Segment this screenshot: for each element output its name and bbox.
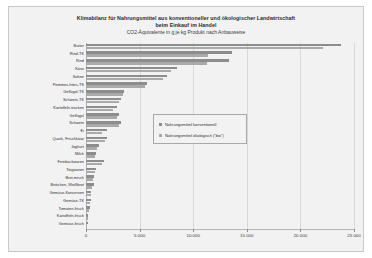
bar-row: [86, 159, 354, 167]
bar-row: [86, 51, 354, 59]
bar-oekologisch: [86, 78, 163, 81]
y-axis-label: Gemüse-Konserven: [21, 189, 84, 197]
x-axis-tick-label: 10.000: [186, 233, 199, 238]
legend-label-konventionell: Nahrungsmittel konventionell: [165, 122, 216, 127]
legend-item-oekologisch: Nahrungsmittel ökologisch ("bio"): [159, 130, 242, 141]
bar-row: [86, 82, 354, 90]
x-axis-tick-label: 20.000: [294, 233, 307, 238]
bar-row: [86, 74, 354, 82]
bar-oekologisch: [86, 85, 145, 88]
legend-label-oekologisch: Nahrungsmittel ökologisch ("bio"): [165, 133, 224, 138]
bar-oekologisch: [86, 178, 93, 181]
bar-row: [86, 59, 354, 67]
y-axis-label: Brot-misch: [21, 174, 84, 182]
y-axis-label: Brötchen, Weißbrot: [21, 181, 84, 189]
x-axis-tick-label: 5.000: [134, 233, 145, 238]
y-axis-label: Gemüse-frisch: [21, 220, 84, 228]
bar-oekologisch: [86, 186, 92, 189]
chart-container: Klimabilanz für Nahrungsmittel aus konve…: [8, 6, 364, 252]
x-axis-tick: [140, 229, 141, 232]
bar-row: [86, 198, 354, 206]
gridline: [354, 43, 355, 229]
bar-row: [86, 183, 354, 191]
x-axis: 05.00010.00015.00020.00025.000: [86, 229, 354, 243]
bar-oekologisch: [86, 225, 87, 228]
x-axis-tick: [193, 229, 194, 232]
x-axis-tick-label: 25.000: [347, 233, 360, 238]
bar-oekologisch: [86, 70, 171, 73]
bar-row: [86, 206, 354, 214]
y-axis-label: Teigwaren: [21, 166, 84, 174]
y-axis-label: Quark, Frischkäse: [21, 135, 84, 143]
y-axis-label: Joghurt: [21, 143, 84, 151]
y-axis-label: Geflügel-TK: [21, 88, 84, 96]
y-axis-label: Schwein: [21, 119, 84, 127]
y-axis-label: Ei: [21, 127, 84, 135]
bar-row: [86, 43, 354, 51]
bar-oekologisch: [86, 62, 207, 65]
y-axis-label: Geflügel: [21, 112, 84, 120]
y-axis-label: Käse: [21, 65, 84, 73]
bar-oekologisch: [86, 202, 90, 205]
y-axis-label: Gemüse-TK: [21, 197, 84, 205]
bar-oekologisch: [86, 116, 117, 119]
y-axis-label: Kartoffeln-trocken: [21, 104, 84, 112]
bar-oekologisch: [86, 93, 123, 96]
bar-oekologisch: [86, 171, 95, 174]
bar-oekologisch: [86, 147, 97, 150]
bar-row: [86, 175, 354, 183]
bar-oekologisch: [86, 209, 89, 212]
chart-title-line-1: Klimabilanz für Nahrungsmittel aus konve…: [9, 15, 363, 22]
bar-oekologisch: [86, 109, 113, 112]
bar-row: [86, 214, 354, 222]
bar-row: [86, 221, 354, 229]
x-axis-tick: [247, 229, 248, 232]
y-axis-label: Sahne: [21, 73, 84, 81]
bar-row: [86, 90, 354, 98]
chart-title-line-2: beim Einkauf im Handel: [9, 22, 363, 29]
y-axis-label: Kartoffeln-frisch: [21, 212, 84, 220]
bar-oekologisch: [86, 54, 208, 57]
x-axis-tick: [354, 229, 355, 232]
bar-row: [86, 105, 354, 113]
chart-title-block: Klimabilanz für Nahrungsmittel aus konve…: [9, 15, 363, 37]
bar-oekologisch: [86, 140, 105, 143]
chart-legend: Nahrungsmittel konventionell Nahrungsmit…: [153, 114, 247, 144]
bar-oekologisch: [86, 155, 95, 158]
legend-swatch-icon-konventionell: [159, 123, 162, 126]
bar-oekologisch: [86, 217, 88, 220]
bar-oekologisch: [86, 163, 102, 166]
bar-oekologisch: [86, 124, 119, 127]
y-axis-label: Butter: [21, 42, 84, 50]
bar-oekologisch: [86, 132, 102, 135]
y-axis-label: Pommes-frites-TK: [21, 81, 84, 89]
y-axis-label: Milch: [21, 150, 84, 158]
bar-oekologisch: [86, 47, 323, 50]
legend-swatch-icon-oekologisch: [159, 134, 162, 137]
bar-row: [86, 97, 354, 105]
y-axis-label: Tomaten-frisch: [21, 205, 84, 213]
bar-row: [86, 66, 354, 74]
x-axis-tick: [86, 229, 87, 232]
x-axis-tick-label: 15.000: [240, 233, 253, 238]
bar-oekologisch: [86, 101, 119, 104]
y-axis-label: Rind: [21, 57, 84, 65]
bar-oekologisch: [86, 194, 91, 197]
chart-subtitle: CO2-Äquivalente in g je kg Produkt nach …: [9, 29, 363, 37]
bar-row: [86, 190, 354, 198]
y-axis-label: Feinbackwaren: [21, 158, 84, 166]
y-axis-category-labels: ButterRind-TKRindKäseSahnePommes-frites-…: [21, 43, 84, 229]
x-axis-tick: [300, 229, 301, 232]
y-axis-label: Rind-TK: [21, 50, 84, 58]
x-axis-tick-label: 0: [85, 233, 87, 238]
bar-row: [86, 167, 354, 175]
bar-row: [86, 144, 354, 152]
bar-row: [86, 152, 354, 160]
legend-item-konventionell: Nahrungsmittel konventionell: [159, 119, 242, 130]
y-axis-label: Schwein-TK: [21, 96, 84, 104]
